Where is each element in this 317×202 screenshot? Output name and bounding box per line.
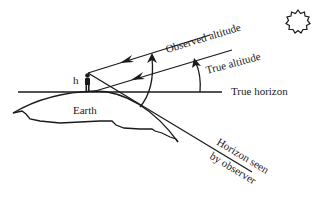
altitude-angle-arc xyxy=(140,58,153,107)
arrow-true-icon xyxy=(131,72,145,80)
true-altitude-arc xyxy=(196,63,200,92)
refraction-diagram: h Earth Observed altitude True altitude … xyxy=(0,0,317,202)
height-label: h xyxy=(73,74,79,86)
sun-icon xyxy=(286,10,310,33)
observer-person-icon xyxy=(85,73,90,92)
observed-altitude-label: Observed altitude xyxy=(164,21,242,55)
earth-label: Earth xyxy=(73,104,97,116)
true-horizon-label: True horizon xyxy=(231,85,288,97)
true-altitude-label: True altitude xyxy=(204,50,261,76)
earth-shape xyxy=(13,91,178,142)
